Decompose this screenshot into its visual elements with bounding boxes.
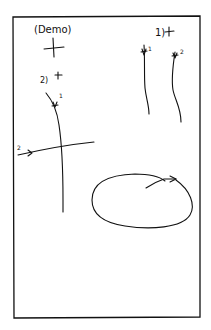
- gesture-2-stroke-1: [46, 93, 63, 212]
- demo-label: (Demo): [34, 24, 72, 35]
- gesture-loop: [92, 174, 192, 228]
- sketch-canvas: (Demo) 1) 1 2 2) 1 2: [0, 0, 211, 330]
- group-2-label: 2): [40, 76, 48, 85]
- gesture-1-stroke-1: [141, 45, 149, 114]
- gesture-2-stroke-1-label: 1: [59, 92, 63, 99]
- gesture-1-stroke-2: [172, 52, 181, 122]
- group-2-plus-icon: [55, 72, 62, 79]
- group-1-plus-icon: [165, 27, 174, 36]
- gesture-2-stroke-2: [18, 142, 94, 156]
- gesture-2-stroke-2-label: 2: [17, 144, 21, 151]
- page-frame: [13, 16, 200, 318]
- group-1-label: 1): [155, 27, 165, 38]
- gesture-1-stroke-1-label: 1: [148, 45, 152, 52]
- demo-crosshair-icon: [44, 38, 64, 57]
- gesture-1-stroke-2-label: 2: [180, 48, 184, 55]
